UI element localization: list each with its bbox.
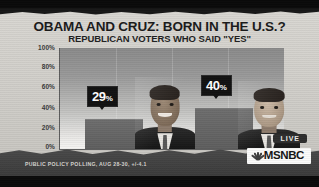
chart-subtitle: REPUBLICAN VOTERS WHO SAID "YES" — [0, 33, 319, 44]
broadcast-screen: OBAMA AND CRUZ: BORN IN THE U.S.? REPUBL… — [0, 0, 319, 187]
y-tick-0: 0% — [3, 143, 55, 150]
value-label-obama: 29% — [87, 86, 118, 107]
torn-edge-decoration — [0, 8, 319, 15]
obama-portrait — [135, 77, 195, 149]
y-tick-80: 80% — [3, 63, 55, 70]
source-attribution: PUBLIC POLICY POLLING, AUG 28-30, +/-4.1 — [25, 161, 147, 167]
value-number-obama: 29 — [92, 89, 106, 104]
chart-graphic-card: OBAMA AND CRUZ: BORN IN THE U.S.? REPUBL… — [0, 8, 319, 176]
y-tick-20: 20% — [3, 124, 55, 131]
percent-sign-cruz: % — [220, 83, 227, 92]
percent-sign-obama: % — [106, 94, 113, 103]
photo-sheen — [135, 77, 195, 149]
y-tick-100: 100% — [3, 44, 55, 51]
y-tick-60: 60% — [3, 83, 55, 90]
plot-area: 29% 40% — [59, 48, 284, 150]
live-badge: LIVE — [273, 134, 307, 143]
nbc-peacock-icon — [253, 151, 262, 160]
value-label-cruz: 40% — [201, 75, 232, 96]
y-axis: 100% 80% 60% 40% 20% 0% — [0, 48, 55, 149]
chart-title: OBAMA AND CRUZ: BORN IN THE U.S.? — [0, 19, 319, 34]
msnbc-logo: MSNBC — [247, 148, 311, 165]
msnbc-wordmark: MSNBC — [264, 150, 304, 162]
value-number-cruz: 40 — [206, 78, 220, 93]
y-tick-40: 40% — [3, 104, 55, 111]
